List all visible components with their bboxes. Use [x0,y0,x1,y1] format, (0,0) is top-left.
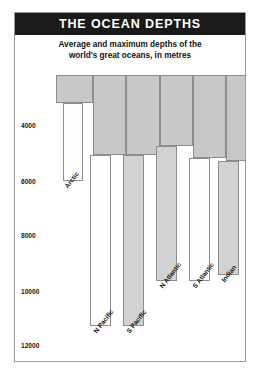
y-axis-tick-label: 12000 [21,342,55,349]
average-depth-bar [226,75,246,161]
average-depth-bar [160,75,193,146]
maximum-depth-bar [156,146,177,281]
maximum-depth-bar [123,155,144,326]
average-depth-bar [93,75,126,155]
y-axis-tick-label: 8000 [21,232,55,239]
average-depth-bar [193,75,226,158]
average-depth-bar [126,75,160,155]
maximum-depth-bar [90,155,111,326]
maximum-depth-bar [218,161,239,275]
y-axis-tick-label: 6000 [21,178,55,185]
y-axis-tick-label: 4000 [21,122,55,129]
average-depth-bar [56,75,93,103]
chart-plot-area: ArcticN PacificS PacificN AtlanticS Atla… [15,13,245,361]
y-axis-tick-label: 10000 [21,288,55,295]
maximum-depth-bar [63,103,83,181]
chart-panel: THE OCEAN DEPTHS Average and maximum dep… [14,12,246,362]
